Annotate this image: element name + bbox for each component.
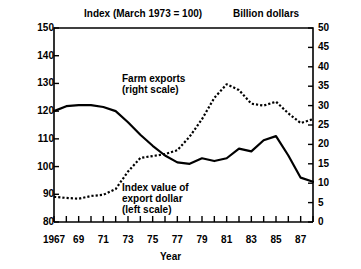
left-tick-label: 80: [26, 216, 54, 227]
series-farm-exports-line: [54, 84, 313, 198]
x-tick-label: 87: [295, 234, 306, 245]
left-tick-label: 140: [26, 50, 54, 61]
chart-container: Index (March 1973 = 100) Billion dollars…: [0, 0, 361, 269]
left-tick-label: 100: [26, 161, 54, 172]
left-tick-label: 90: [26, 188, 54, 199]
plot-area: [0, 0, 361, 269]
left-tick-label: 150: [26, 22, 54, 33]
right-tick-label: 15: [318, 158, 338, 169]
x-tick-label: 79: [196, 234, 207, 245]
axis-frame: [54, 28, 313, 222]
right-tick-label: 35: [318, 80, 338, 91]
left-tick-label: 120: [26, 105, 54, 116]
x-tick-label: 73: [122, 234, 133, 245]
x-tick-label: 69: [73, 234, 84, 245]
right-tick-label: 10: [318, 177, 338, 188]
x-tick-label: 83: [246, 234, 257, 245]
x-tick-label: 81: [221, 234, 232, 245]
data-series-layer: [54, 84, 313, 198]
right-tick-label: 45: [318, 41, 338, 52]
x-tick-label: 71: [98, 234, 109, 245]
series-index-value-line: [54, 105, 313, 182]
left-tick-label: 130: [26, 77, 54, 88]
x-tick-label: 75: [147, 234, 158, 245]
x-tick-label: 85: [270, 234, 281, 245]
right-tick-label: 30: [318, 100, 338, 111]
x-tick-label: 1967: [43, 234, 65, 245]
left-tick-label: 110: [26, 133, 54, 144]
x-tick-label: 77: [172, 234, 183, 245]
right-tick-label: 40: [318, 61, 338, 72]
right-tick-label: 5: [318, 197, 338, 208]
right-tick-label: 25: [318, 119, 338, 130]
right-tick-label: 20: [318, 138, 338, 149]
right-tick-label: 50: [318, 22, 338, 33]
x-axis-ticks: [54, 216, 313, 222]
right-tick-label: 0: [318, 216, 338, 227]
